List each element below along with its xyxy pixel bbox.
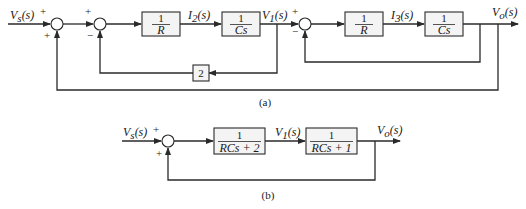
block-1-over-r-a2: 1 R bbox=[345, 12, 383, 37]
input-label-a: Vs(s) bbox=[10, 8, 34, 24]
summing-junction-2 bbox=[94, 18, 106, 30]
summer1-sign-bottom: + bbox=[44, 29, 50, 41]
svg-text:1: 1 bbox=[329, 129, 335, 141]
summing-junction-b bbox=[162, 135, 174, 147]
svg-text:1: 1 bbox=[237, 129, 243, 141]
diagram-b: Vs(s) + + 1 RCs + 2 V1(s) 1 RCs + 1 Vo(s… bbox=[122, 123, 403, 202]
summer1-sign-top: + bbox=[40, 5, 46, 17]
caption-b: (b) bbox=[262, 189, 275, 202]
signal-v1-label-a: V1(s) bbox=[262, 8, 288, 24]
signal-i2-label: I2(s) bbox=[187, 8, 210, 24]
block-1-over-rcs-plus-1: 1 RCs + 1 bbox=[306, 128, 357, 155]
diagram-a: Vs(s) + + + − 1 R I2(s) 1 Cs bbox=[8, 5, 518, 109]
signal-v1-label-b: V1(s) bbox=[275, 125, 301, 141]
svg-text:2: 2 bbox=[198, 67, 204, 79]
block-gain-2: 2 bbox=[193, 65, 209, 81]
feedback-gain-to-s2 bbox=[100, 31, 193, 73]
block-1-over-cs-a1: 1 Cs bbox=[222, 12, 260, 37]
svg-text:Cs: Cs bbox=[235, 23, 248, 37]
block-1-over-r-a1: 1 R bbox=[142, 12, 180, 37]
input-label-b: Vs(s) bbox=[123, 125, 147, 141]
block-diagram-canvas: Vs(s) + + + − 1 R I2(s) 1 Cs bbox=[0, 0, 526, 209]
caption-a: (a) bbox=[259, 96, 272, 109]
summer2-sign-top: + bbox=[85, 5, 91, 17]
svg-text:R: R bbox=[359, 23, 368, 37]
summer3-sign-top: + bbox=[292, 5, 298, 17]
output-label-b: Vo(s) bbox=[377, 123, 403, 139]
summer-b-sign-bottom: + bbox=[156, 147, 162, 159]
block-1-over-cs-a2: 1 Cs bbox=[425, 12, 463, 37]
signal-i3-label: I3(s) bbox=[390, 8, 413, 24]
svg-text:Cs: Cs bbox=[438, 23, 451, 37]
summer2-sign-bottom: − bbox=[87, 29, 93, 41]
block-1-over-rcs-plus-2: 1 RCs + 2 bbox=[214, 128, 265, 155]
summer-b-sign-top: + bbox=[153, 123, 159, 135]
summing-junction-1 bbox=[51, 18, 63, 30]
svg-text:RCs + 2: RCs + 2 bbox=[218, 141, 259, 155]
output-label-a: Vo(s) bbox=[492, 5, 518, 21]
svg-text:RCs + 1: RCs + 1 bbox=[310, 141, 351, 155]
svg-text:R: R bbox=[156, 23, 165, 37]
summer3-sign-bottom: − bbox=[292, 25, 298, 37]
summing-junction-3 bbox=[299, 18, 311, 30]
